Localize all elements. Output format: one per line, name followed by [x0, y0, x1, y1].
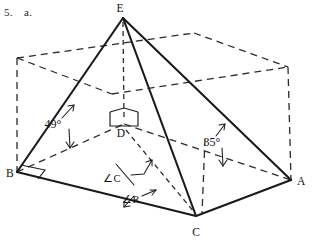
angle-label-35: 35°	[204, 135, 221, 149]
problem-part: a.	[24, 6, 32, 18]
right-angle-marks-group	[21, 108, 138, 179]
annotation-labels-group: ∠C ∠R	[103, 173, 139, 205]
box-top-back-left-edge	[17, 33, 194, 58]
vertex-label-b: B	[6, 167, 14, 179]
problem-number: 5.	[4, 6, 13, 18]
figure-container: E B A C D 49° 35° ∠C ∠R 5. a.	[0, 0, 312, 242]
leader-49-lower	[69, 129, 70, 148]
edge-e-to-a	[123, 18, 291, 180]
edge-c-to-a	[196, 180, 291, 216]
box-top-front-left-edge	[17, 58, 112, 94]
edge-e-to-b	[17, 18, 123, 172]
edge-e-to-c	[123, 18, 196, 216]
leader-angle-c	[131, 160, 152, 175]
vertex-label-d: D	[117, 127, 125, 139]
altitude-e-to-d	[123, 22, 124, 118]
problem-label-group: 5. a.	[4, 6, 32, 18]
leader-49-upper	[62, 105, 74, 118]
box-vertical-right-edge	[288, 67, 291, 180]
box-top-front-right-edge	[112, 67, 288, 94]
annotation-angle-c: ∠C	[103, 173, 120, 184]
angle-label-49: 49°	[45, 117, 62, 131]
vertex-label-a: A	[297, 175, 306, 187]
vertex-label-e: E	[116, 2, 123, 14]
right-angle-mark-d-top	[110, 108, 138, 112]
leader-35-lower	[222, 148, 223, 166]
box-top-back-right-edge	[194, 33, 288, 67]
right-angle-mark-d-right	[124, 112, 138, 126]
pyramid-in-box-diagram: E B A C D 49° 35° ∠C ∠R 5. a.	[0, 0, 312, 242]
box-bottom-back-right-edge	[124, 124, 291, 180]
box-vertical-front-edge	[202, 139, 205, 214]
right-angle-mark-d-left	[110, 112, 124, 126]
angle-labels-group: 49° 35°	[45, 117, 221, 149]
vertex-label-c: C	[192, 226, 200, 238]
angle-leaders-group	[62, 105, 227, 166]
annotation-angle-r: ∠R	[122, 194, 139, 205]
